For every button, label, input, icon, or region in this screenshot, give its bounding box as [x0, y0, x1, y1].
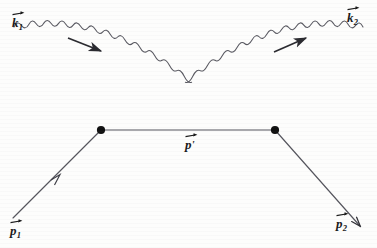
label-electron-internal: p ': [185, 136, 195, 152]
incoming-photon-wavy-line: [14, 20, 192, 82]
feynman-diagram-figure: k 1 k 2 p 1 p: [0, 0, 377, 248]
outgoing-electron-line: [275, 130, 360, 226]
photon-out-momentum-arrow: [274, 38, 306, 52]
photon-in-momentum-arrow: [68, 38, 101, 51]
interaction-vertex-right: [271, 126, 279, 134]
interaction-vertex-left: [97, 126, 105, 134]
label-electron-in: p 1: [10, 222, 21, 240]
label-photon-out-sub: 2: [354, 17, 358, 27]
label-photon-out-base: k: [347, 11, 354, 24]
electron-out-momentum-arrow: [275, 130, 360, 226]
label-photon-in-sub: 1: [19, 22, 23, 32]
label-photon-in-base: k: [12, 16, 19, 29]
label-electron-out-base: p: [336, 217, 343, 230]
incoming-electron-line: [13, 130, 101, 218]
diagram-canvas: [0, 0, 377, 248]
label-electron-out-sub: 2: [343, 223, 347, 233]
label-electron-out: p 2: [336, 215, 347, 233]
label-photon-in: k 1: [12, 14, 23, 32]
label-electron-in-base: p: [10, 224, 17, 237]
label-electron-in-sub: 1: [17, 230, 21, 240]
label-photon-out: k 2: [347, 9, 358, 27]
label-electron-internal-base: p: [185, 138, 192, 151]
